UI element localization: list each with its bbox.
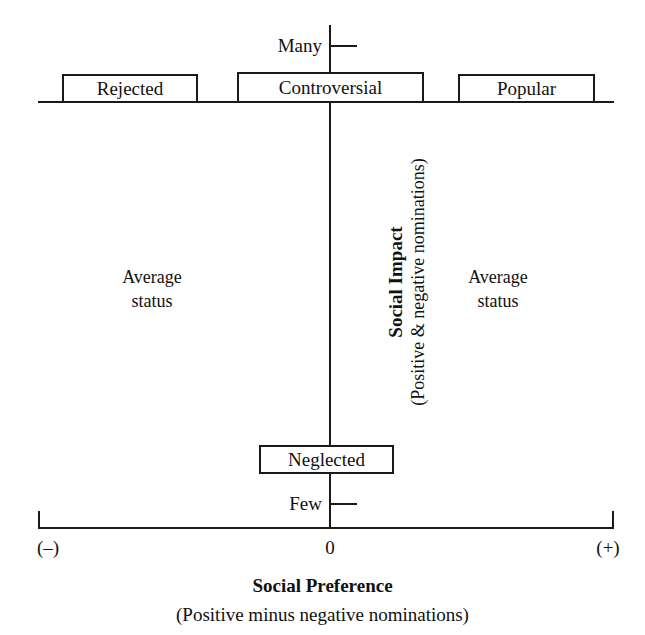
quadrant-label-line2: status — [92, 289, 212, 313]
tick-mark-few — [331, 503, 357, 505]
quadrant-label-line1: Average — [438, 265, 558, 289]
quadrant-label-line1: Average — [92, 265, 212, 289]
x-axis-positive-label: (+) — [578, 538, 638, 557]
x-axis-subtitle: (Positive minus negative nominations) — [0, 604, 645, 627]
tick-mark-many — [331, 45, 357, 47]
y-axis-high-label: Many — [218, 36, 322, 55]
x-axis-title: Social Preference — [0, 575, 645, 598]
category-box-popular[interactable]: Popular — [458, 74, 595, 103]
axis-end-cap-right — [612, 511, 614, 529]
y-axis-title: Social Impact — [385, 226, 407, 337]
x-axis-negative-label: (–) — [18, 538, 78, 557]
category-box-neglected[interactable]: Neglected — [259, 445, 394, 474]
horizontal-axis-line — [38, 527, 614, 529]
x-axis-title-group: Social Preference (Positive minus negati… — [0, 575, 645, 627]
axis-end-cap-left — [38, 511, 40, 529]
x-axis-origin-label: 0 — [300, 538, 360, 557]
category-box-controversial[interactable]: Controversial — [237, 72, 424, 103]
quadrant-label-line2: status — [438, 289, 558, 313]
sociometric-classification-diagram: Many Few Rejected Controversial Popular … — [0, 0, 645, 635]
quadrant-label-average-status-left: Average status — [92, 265, 212, 314]
y-axis-low-label: Few — [218, 494, 322, 513]
category-box-rejected[interactable]: Rejected — [62, 74, 198, 103]
y-axis-subtitle: (Positive & negative nominations) — [408, 158, 429, 405]
quadrant-label-average-status-right: Average status — [438, 265, 558, 314]
